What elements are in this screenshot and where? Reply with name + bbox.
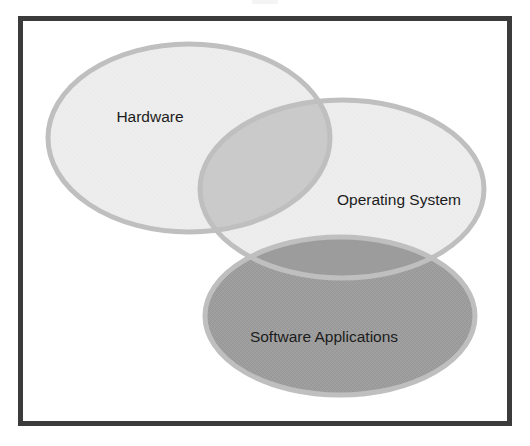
set-label-software-applications: Software Applications: [250, 328, 398, 345]
venn-diagram: Hardware Operating System Software Appli…: [0, 0, 530, 446]
figure-canvas: Hardware Operating System Software Appli…: [0, 0, 530, 446]
set-label-hardware: Hardware: [116, 108, 183, 125]
set-label-operating-system: Operating System: [337, 191, 461, 208]
